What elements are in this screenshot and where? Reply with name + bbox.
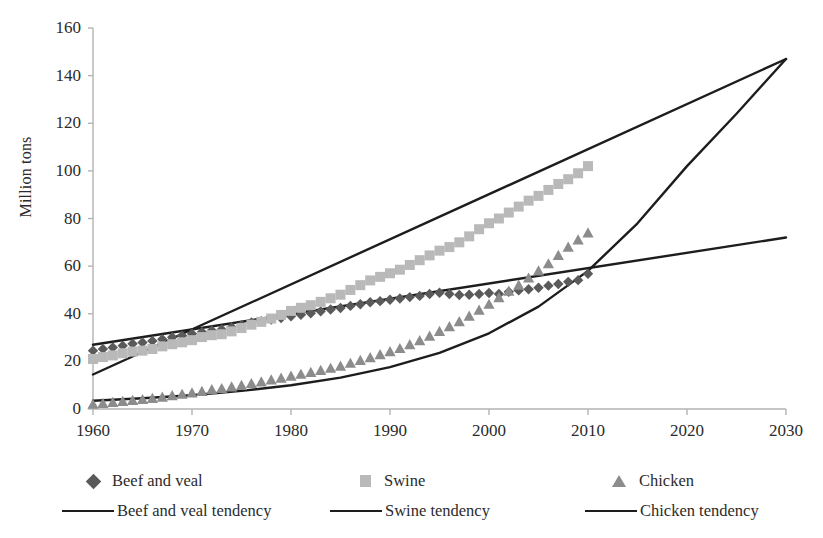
legend-label: Beef and veal [112,471,203,491]
legend-item-swine[interactable]: Swine [360,466,425,496]
diamond-marker-icon [86,473,102,489]
legend-item-beef-and-veal-tendency[interactable]: Beef and veal tendency [62,496,271,526]
legend-item-chicken-tendency[interactable]: Chicken tendency [585,496,759,526]
chart-container: Million tons 160140120100806040200 19601… [0,0,823,538]
data-markers-layer [87,161,593,409]
plot-area [0,0,823,538]
legend-lines-row: Beef and veal tendencySwine tendencyChic… [0,496,823,526]
square-marker-icon [360,475,371,487]
tendency-lines-layer [93,59,786,401]
legend-item-beef-and-veal[interactable]: Beef and veal [88,466,203,496]
legend-label: Beef and veal tendency [117,501,271,521]
tendency-line-chicken-tendency [93,59,786,401]
legend-item-chicken[interactable]: Chicken [612,466,694,496]
legend-label: Chicken [639,471,694,491]
line-swatch-icon [585,510,637,512]
line-swatch-icon [330,510,382,512]
line-swatch-icon [62,510,114,512]
legend-markers-row: Beef and vealSwineChicken [0,466,823,496]
axis-lines [88,28,786,415]
legend-label: Swine tendency [385,501,490,521]
legend-item-swine-tendency[interactable]: Swine tendency [330,496,490,526]
legend-label: Chicken tendency [640,501,759,521]
chart-legend: Beef and vealSwineChicken Beef and veal … [0,466,823,532]
legend-label: Swine [384,471,425,491]
triangle-marker-icon [612,475,626,487]
